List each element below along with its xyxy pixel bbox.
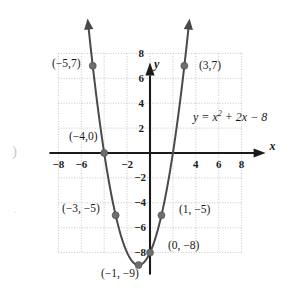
point-label: (−1, −9) [101, 268, 139, 280]
x-tick-label: 4 [193, 159, 199, 170]
point-label: (−4,0) [69, 131, 98, 143]
paper-smudge: ) [12, 143, 17, 160]
y-tick-label: −8 [134, 247, 146, 258]
equation-label: y = x2 + 2x − 8 [193, 110, 267, 123]
curve-arrowhead [184, 19, 193, 30]
point-label: (3,7) [199, 60, 221, 72]
y-tick-label: −2 [134, 172, 146, 183]
x-tick-label: 6 [216, 159, 222, 170]
x-tick-label: 8 [239, 159, 245, 170]
point-label: (1, −5) [179, 204, 210, 216]
paper-smudge-2: . [14, 205, 16, 215]
parabola-graph-figure: ) . −8−6−24688642−2−4−6−8yx(−5,7)(3,7)(−… [0, 0, 298, 296]
coordinate-plane-svg [0, 0, 298, 296]
point-label: (−5,7) [52, 58, 81, 70]
y-tick-label: −4 [134, 197, 146, 208]
plot-point [89, 62, 96, 69]
y-tick-label: 4 [139, 98, 145, 109]
y-tick-label: 2 [139, 123, 145, 134]
plot-point [112, 212, 119, 219]
point-label: (−3, −5) [62, 203, 100, 215]
x-axis-label: x [270, 140, 276, 152]
y-axis-label: y [154, 58, 159, 70]
plot-point [181, 62, 188, 69]
curve-arrowhead [84, 19, 93, 30]
y-tick-label: 8 [139, 48, 145, 59]
point-label: (0, −8) [168, 240, 199, 252]
x-tick-label: −8 [53, 159, 65, 170]
x-tick-label: −2 [121, 159, 133, 170]
plot-point [101, 150, 108, 157]
y-tick-label: −6 [134, 222, 146, 233]
y-tick-label: 6 [139, 73, 145, 84]
plot-point [147, 249, 154, 256]
x-tick-label: −6 [75, 159, 87, 170]
x-axis-arrowhead [254, 148, 266, 157]
plot-point [158, 212, 165, 219]
